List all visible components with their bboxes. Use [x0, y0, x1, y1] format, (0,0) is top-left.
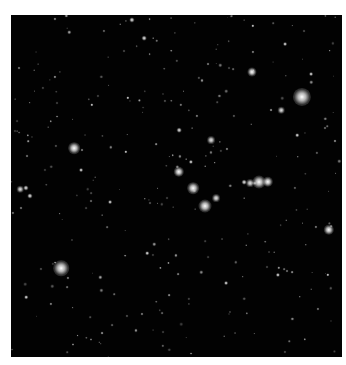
faint-star: [148, 53, 151, 56]
bright-star: [276, 273, 280, 277]
faint-star: [167, 348, 170, 351]
faint-star: [310, 81, 314, 85]
faint-star: [250, 124, 252, 126]
faint-star: [314, 225, 317, 228]
bright-star: [129, 17, 134, 22]
faint-star: [44, 169, 47, 172]
faint-star: [228, 184, 231, 187]
faint-star: [179, 103, 182, 106]
faint-star: [76, 194, 78, 196]
bright-star: [283, 42, 287, 46]
faint-star: [204, 165, 206, 167]
faint-star: [86, 187, 90, 191]
faint-star: [179, 323, 183, 327]
faint-star: [49, 79, 51, 81]
faint-star: [129, 100, 131, 102]
faint-star: [243, 297, 247, 301]
faint-star: [174, 254, 177, 257]
faint-star: [234, 260, 237, 263]
faint-star: [274, 251, 276, 253]
faint-star: [100, 75, 103, 78]
bright-star: [293, 88, 311, 106]
bright-star: [295, 133, 299, 137]
faint-star: [148, 18, 151, 21]
faint-star: [148, 202, 151, 205]
faint-star: [265, 265, 268, 268]
bright-star: [199, 200, 212, 213]
faint-star: [221, 238, 223, 240]
faint-star: [228, 66, 231, 69]
faint-star: [172, 154, 175, 157]
faint-star: [34, 90, 36, 92]
faint-star: [315, 151, 318, 154]
faint-star: [31, 136, 33, 138]
faint-star: [161, 344, 164, 347]
bright-star: [24, 295, 28, 299]
faint-star: [37, 63, 39, 65]
faint-star: [62, 219, 64, 221]
faint-star: [76, 334, 79, 337]
faint-star: [55, 102, 58, 105]
faint-star: [160, 203, 163, 206]
faint-star: [194, 208, 196, 210]
faint-star: [53, 75, 56, 78]
faint-star: [333, 75, 335, 77]
faint-star: [11, 211, 14, 214]
faint-star: [58, 212, 61, 215]
faint-star: [100, 289, 103, 292]
faint-star: [304, 132, 306, 134]
faint-star: [102, 214, 104, 216]
faint-star: [15, 98, 17, 100]
faint-star: [324, 15, 326, 17]
faint-star: [143, 198, 145, 200]
faint-star: [173, 32, 175, 34]
faint-star: [19, 206, 22, 209]
faint-star: [331, 42, 334, 45]
faint-star: [187, 297, 190, 300]
bright-star: [27, 193, 32, 198]
faint-star: [232, 115, 235, 118]
bright-star: [68, 142, 80, 154]
faint-star: [124, 254, 127, 257]
faint-star: [51, 285, 54, 288]
faint-star: [49, 302, 52, 305]
faint-star: [185, 158, 187, 160]
faint-star: [333, 139, 336, 142]
faint-star: [17, 130, 19, 132]
bright-star: [145, 251, 149, 255]
faint-star: [87, 98, 89, 100]
faint-star: [49, 165, 53, 169]
faint-star: [212, 146, 214, 148]
faint-star: [302, 58, 304, 60]
faint-star: [155, 143, 158, 146]
faint-star: [246, 312, 248, 314]
faint-star: [232, 68, 235, 71]
faint-star: [305, 244, 307, 246]
bright-star: [17, 186, 24, 193]
faint-star: [279, 224, 282, 227]
faint-star: [33, 69, 35, 71]
faint-star: [90, 338, 92, 340]
faint-star: [291, 317, 294, 320]
bright-star: [326, 273, 329, 276]
faint-star: [152, 329, 154, 331]
faint-star: [107, 56, 109, 58]
faint-star: [155, 39, 159, 43]
faint-star: [299, 295, 301, 297]
faint-star: [68, 30, 72, 34]
faint-star: [332, 112, 334, 114]
faint-star: [11, 180, 12, 183]
faint-star: [152, 243, 156, 247]
bright-star: [79, 168, 83, 172]
faint-star: [310, 288, 312, 290]
faint-star: [324, 117, 327, 120]
faint-star: [288, 340, 290, 342]
faint-star: [276, 155, 278, 157]
faint-star: [113, 293, 116, 296]
faint-star: [122, 49, 125, 52]
faint-star: [163, 67, 166, 70]
faint-star: [295, 209, 297, 211]
faint-star: [329, 286, 332, 289]
faint-star: [66, 351, 68, 353]
faint-star: [47, 126, 49, 128]
